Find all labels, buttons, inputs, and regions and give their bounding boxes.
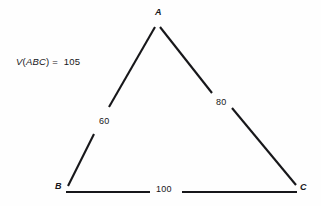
edge-label-ab: 60 — [99, 117, 109, 126]
edge-ac-segment-lower — [232, 108, 296, 185]
vertex-label-b: B — [55, 182, 62, 191]
edge-ac-segment-upper — [160, 27, 212, 93]
diagram-canvas: A B C 60 80 100 V(ABC) = 105 — [0, 0, 321, 206]
vertex-label-a: A — [155, 8, 162, 17]
formula-value: 105 — [64, 56, 80, 67]
value-function-annotation: V(ABC) = 105 — [16, 57, 80, 67]
formula-equals: = — [52, 56, 58, 67]
formula-arguments: ABC — [26, 56, 46, 67]
edge-label-ac: 80 — [216, 98, 226, 107]
edge-label-bc: 100 — [156, 185, 172, 194]
edge-ab-segment-upper — [109, 27, 155, 107]
triangle-graph-svg — [0, 0, 321, 206]
vertex-label-c: C — [300, 183, 307, 192]
edge-ab-segment-lower — [68, 134, 94, 186]
formula-close-paren: ) — [46, 56, 49, 67]
